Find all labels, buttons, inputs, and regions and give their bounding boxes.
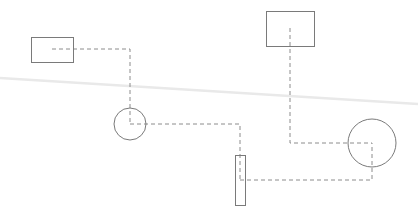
node-layer: [32, 12, 397, 206]
edge-rect-narrow-to-circle-right[interactable]: [240, 143, 372, 180]
edge-circle-left-to-rect-narrow[interactable]: [130, 124, 240, 180]
artifact-layer: [0, 78, 418, 104]
rect-small-node[interactable]: [32, 38, 74, 63]
diagram-canvas: [0, 0, 418, 215]
faint-diagonal-line: [0, 78, 418, 104]
connector-layer: [52, 28, 372, 180]
edge-rect-large-to-circle-right[interactable]: [290, 28, 372, 143]
